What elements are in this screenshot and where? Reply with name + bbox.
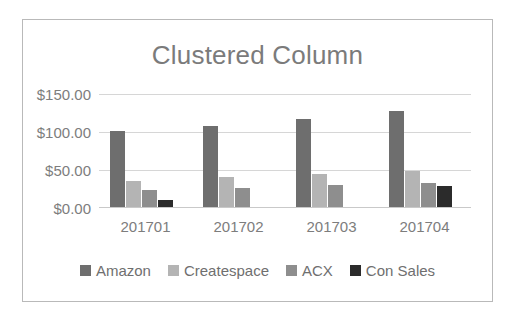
bar[interactable] [235, 188, 250, 207]
bar[interactable] [110, 131, 125, 207]
legend-item[interactable]: ACX [286, 262, 333, 279]
legend-item[interactable]: Createspace [168, 262, 269, 279]
bar[interactable] [421, 183, 436, 207]
bar[interactable] [296, 119, 311, 207]
chart-frame: Clustered Column $0.00$50.00$100.00$150.… [22, 19, 493, 302]
bar-cluster [389, 94, 452, 207]
legend-swatch-icon [350, 265, 361, 276]
y-axis-tick-label: $0.00 [53, 200, 91, 217]
y-axis-tick-label: $50.00 [45, 162, 91, 179]
bar[interactable] [158, 200, 173, 207]
legend-item[interactable]: Amazon [80, 262, 151, 279]
bar-cluster [203, 94, 266, 207]
legend-swatch-icon [80, 265, 91, 276]
x-axis-tick-label: 201704 [399, 218, 449, 235]
bar[interactable] [219, 177, 234, 207]
legend-label: Createspace [184, 262, 269, 279]
x-axis-tick-label: 201702 [213, 218, 263, 235]
bar[interactable] [389, 111, 404, 207]
legend-label: Con Sales [366, 262, 435, 279]
legend-label: ACX [302, 262, 333, 279]
chart-legend: AmazonCreatespaceACXCon Sales [23, 262, 492, 279]
bar[interactable] [142, 190, 157, 207]
x-axis-tick-label: 201701 [120, 218, 170, 235]
axis-baseline [99, 207, 471, 208]
chart-title: Clustered Column [23, 40, 492, 71]
bar[interactable] [437, 186, 452, 207]
legend-label: Amazon [96, 262, 151, 279]
legend-item[interactable]: Con Sales [350, 262, 435, 279]
bar-cluster [296, 94, 359, 207]
bar[interactable] [312, 174, 327, 207]
bar-cluster [110, 94, 173, 207]
bar[interactable] [328, 185, 343, 207]
bar[interactable] [203, 126, 218, 207]
y-axis-tick-label: $100.00 [37, 124, 91, 141]
legend-swatch-icon [168, 265, 179, 276]
bar[interactable] [405, 171, 420, 207]
x-axis-tick-label: 201703 [306, 218, 356, 235]
legend-swatch-icon [286, 265, 297, 276]
bar[interactable] [126, 181, 141, 207]
plot-area: $0.00$50.00$100.00$150.00 20170120170220… [99, 94, 471, 208]
y-axis-tick-label: $150.00 [37, 86, 91, 103]
